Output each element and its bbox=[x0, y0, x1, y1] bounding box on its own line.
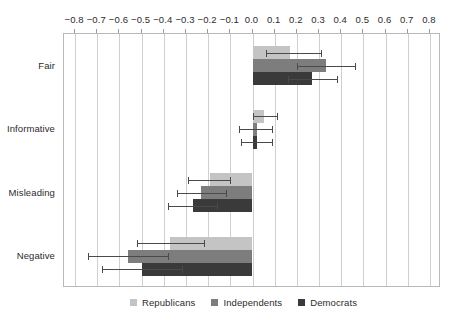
tick-mark bbox=[340, 29, 341, 33]
error-bar-cap-low bbox=[188, 177, 189, 184]
error-bar-cap-high bbox=[337, 76, 338, 83]
tick-mark bbox=[429, 29, 430, 33]
tick-mark bbox=[163, 29, 164, 33]
gridline bbox=[119, 34, 120, 286]
error-bar-line bbox=[253, 116, 277, 117]
legend-item[interactable]: Republicans bbox=[130, 297, 195, 308]
x-tick-label: −0.8 bbox=[65, 14, 84, 25]
error-bar-cap-high bbox=[272, 126, 273, 133]
legend-label: Republicans bbox=[142, 297, 195, 308]
gridline bbox=[341, 34, 342, 286]
error-bar-line bbox=[168, 206, 217, 207]
tick-mark bbox=[318, 29, 319, 33]
tick-mark bbox=[185, 29, 186, 33]
chart-legend: RepublicansIndependentsDemocrats bbox=[63, 297, 440, 308]
error-bar-cap-low bbox=[288, 76, 289, 83]
tick-mark bbox=[96, 29, 97, 33]
x-tick-label: 0.1 bbox=[267, 14, 281, 25]
error-bar-line bbox=[102, 269, 182, 270]
x-tick-label: 0.4 bbox=[333, 14, 347, 25]
error-bar-cap-low bbox=[241, 139, 242, 146]
y-tick-label: Negative bbox=[0, 250, 55, 261]
error-bar-cap-high bbox=[182, 266, 183, 273]
error-bar-cap-high bbox=[168, 253, 169, 260]
gridline bbox=[75, 34, 76, 286]
x-tick-label: −0.1 bbox=[220, 14, 239, 25]
gridline bbox=[363, 34, 364, 286]
gridline bbox=[142, 34, 143, 286]
x-tick-label: −0.2 bbox=[198, 14, 217, 25]
tick-mark bbox=[407, 29, 408, 33]
x-tick-label: −0.7 bbox=[87, 14, 106, 25]
gridline bbox=[430, 34, 431, 286]
error-bar-cap-high bbox=[321, 50, 322, 57]
error-bar-cap-high bbox=[226, 190, 227, 197]
error-bar-cap-low bbox=[168, 203, 169, 210]
error-bar-cap-low bbox=[137, 240, 138, 247]
error-bar-cap-low bbox=[253, 113, 254, 120]
error-bar-cap-low bbox=[266, 50, 267, 57]
error-bar-line bbox=[137, 243, 204, 244]
tick-mark bbox=[207, 29, 208, 33]
legend-label: Democrats bbox=[310, 297, 357, 308]
y-tick-label: Fair bbox=[0, 59, 55, 70]
tick-mark bbox=[141, 29, 142, 33]
legend-item[interactable]: Democrats bbox=[298, 297, 357, 308]
error-bar-cap-low bbox=[297, 63, 298, 70]
x-tick-label: 0.6 bbox=[378, 14, 392, 25]
legend-label: Independents bbox=[223, 297, 282, 308]
legend-swatch-icon bbox=[298, 299, 305, 306]
x-tick-label: 0.7 bbox=[400, 14, 414, 25]
x-tick-label: −0.6 bbox=[109, 14, 128, 25]
error-bar-cap-low bbox=[239, 126, 240, 133]
tick-mark bbox=[252, 29, 253, 33]
error-bar-cap-low bbox=[177, 190, 178, 197]
error-bar-line bbox=[239, 129, 272, 130]
error-bar-line bbox=[188, 180, 230, 181]
y-tick-label: Misleading bbox=[0, 186, 55, 197]
chart-figure: −0.8−0.7−0.6−0.5−0.4−0.3−0.2−0.10.00.10.… bbox=[0, 0, 457, 324]
x-tick-label: −0.5 bbox=[131, 14, 150, 25]
x-tick-label: 0.3 bbox=[311, 14, 325, 25]
error-bar-line bbox=[288, 79, 337, 80]
tick-mark bbox=[274, 29, 275, 33]
error-bar-line bbox=[297, 66, 355, 67]
error-bar-line bbox=[177, 193, 226, 194]
x-tick-label: −0.3 bbox=[175, 14, 194, 25]
tick-mark bbox=[296, 29, 297, 33]
error-bar-cap-high bbox=[355, 63, 356, 70]
error-bar-line bbox=[241, 142, 272, 143]
error-bar-cap-low bbox=[102, 266, 103, 273]
error-bar-cap-high bbox=[277, 113, 278, 120]
error-bar-cap-low bbox=[88, 253, 89, 260]
gridline bbox=[386, 34, 387, 286]
x-tick-label: 0.2 bbox=[289, 14, 303, 25]
error-bar-cap-high bbox=[230, 177, 231, 184]
error-bar-cap-high bbox=[217, 203, 218, 210]
error-bar-line bbox=[266, 53, 321, 54]
tick-mark bbox=[118, 29, 119, 33]
error-bar-cap-high bbox=[272, 139, 273, 146]
legend-swatch-icon bbox=[211, 299, 218, 306]
error-bar-line bbox=[88, 256, 168, 257]
legend-item[interactable]: Independents bbox=[211, 297, 282, 308]
gridline bbox=[164, 34, 165, 286]
y-tick-label: Informative bbox=[0, 123, 55, 134]
gridline bbox=[97, 34, 98, 286]
gridline bbox=[408, 34, 409, 286]
x-tick-label: 0.0 bbox=[245, 14, 259, 25]
tick-mark bbox=[229, 29, 230, 33]
tick-mark bbox=[362, 29, 363, 33]
tick-mark bbox=[385, 29, 386, 33]
x-tick-label: 0.8 bbox=[422, 14, 436, 25]
x-tick-label: −0.4 bbox=[153, 14, 172, 25]
tick-mark bbox=[74, 29, 75, 33]
x-tick-label: 0.5 bbox=[356, 14, 370, 25]
error-bar-cap-high bbox=[204, 240, 205, 247]
plot-area bbox=[63, 33, 440, 287]
legend-swatch-icon bbox=[130, 299, 137, 306]
